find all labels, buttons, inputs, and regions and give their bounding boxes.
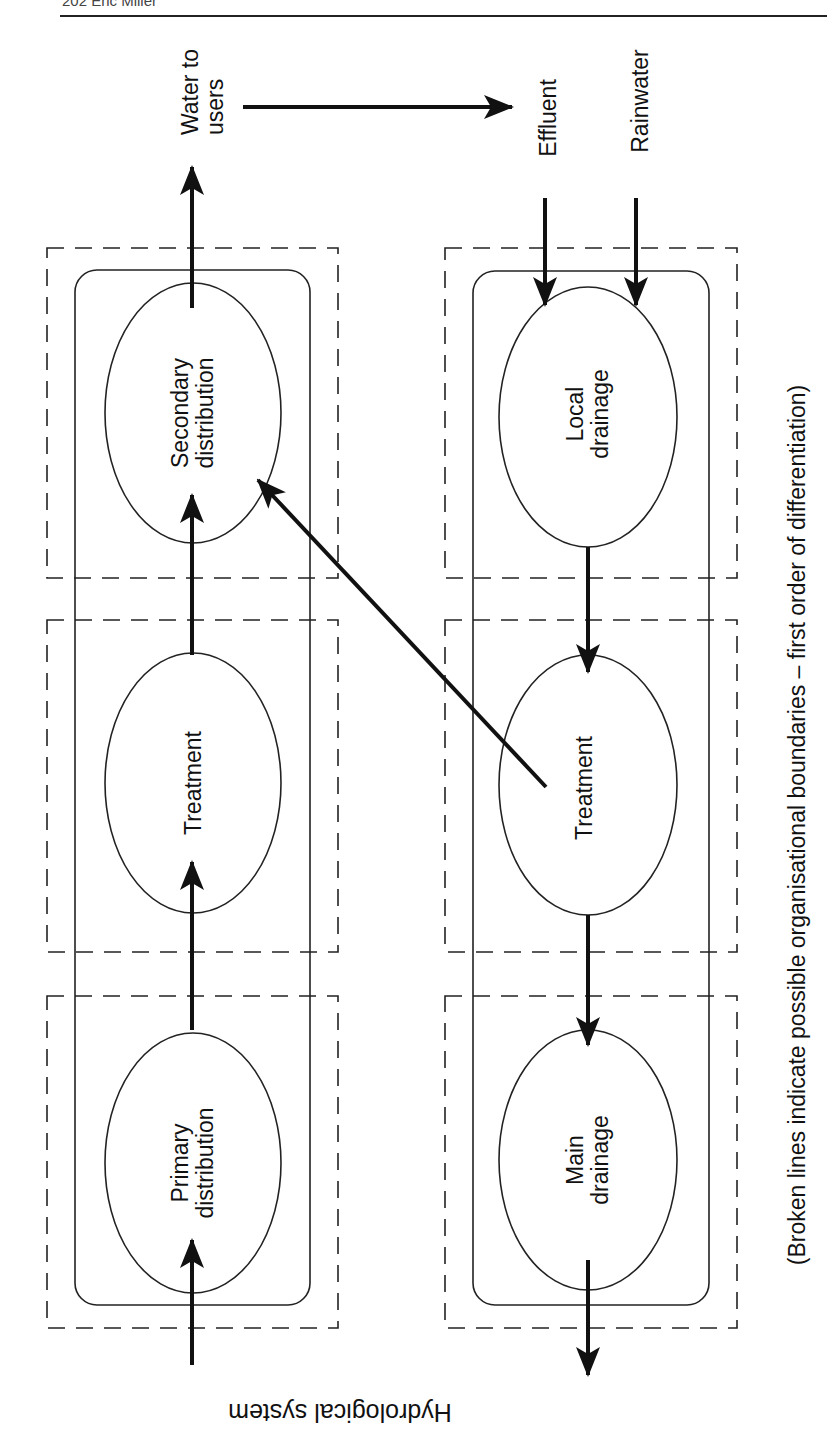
label-treatment-supply: Treatment xyxy=(181,731,206,835)
label-main-drainage: Main drainage xyxy=(563,1115,613,1205)
hydrological-system-diagram xyxy=(0,0,827,1442)
label-secondary-distribution: Secondary distribution xyxy=(168,357,218,468)
label-text: Secondary distribution xyxy=(168,357,218,468)
label-text: Local drainage xyxy=(563,369,613,459)
label-text: Effluent xyxy=(535,79,561,157)
diagram-title: Hydrological system xyxy=(228,1398,452,1427)
arrow-treatment-reuse-to-secondary xyxy=(258,480,546,787)
label-text: Treatment xyxy=(181,731,206,835)
label-rainwater: Rainwater xyxy=(628,49,653,153)
caption-text: (Broken lines indicate possible organisa… xyxy=(784,385,810,1265)
label-local-drainage: Local drainage xyxy=(563,369,613,459)
figure-caption: (Broken lines indicate possible organisa… xyxy=(785,385,810,1265)
label-text: Primary distribution xyxy=(168,1107,218,1218)
label-treatment-drainage: Treatment xyxy=(572,736,597,840)
label-primary-distribution: Primary distribution xyxy=(168,1107,218,1218)
label-effluent: Effluent xyxy=(536,79,561,157)
label-text: Water to users xyxy=(178,49,228,135)
label-water-to-users: Water to users xyxy=(178,49,228,135)
label-text: Main drainage xyxy=(563,1115,613,1205)
label-text: Rainwater xyxy=(627,49,653,153)
label-text: Treatment xyxy=(572,736,597,840)
